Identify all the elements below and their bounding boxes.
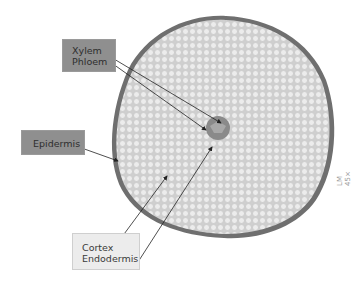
- magnification-label: LM 45×: [336, 166, 352, 186]
- xylem-label: Xylem: [72, 45, 115, 56]
- epidermis-text: Epidermis: [33, 138, 84, 149]
- xylem-phloem-label: Xylem Phloem: [62, 39, 116, 72]
- cortex-endodermis-label: Cortex Endodermis: [72, 233, 140, 270]
- cortex-label: Cortex: [82, 242, 139, 253]
- endodermis-label: Endodermis: [82, 253, 139, 264]
- phloem-label: Phloem: [72, 56, 115, 67]
- epidermis-label: Epidermis: [21, 130, 85, 155]
